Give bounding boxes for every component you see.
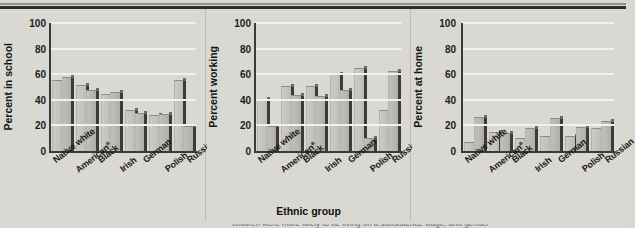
bar-top bbox=[291, 84, 294, 87]
bar-top bbox=[510, 131, 513, 134]
bar-top bbox=[183, 78, 186, 81]
bar-top bbox=[325, 94, 328, 97]
top-rule-light bbox=[0, 3, 626, 5]
y-axis-line-3 bbox=[461, 23, 463, 152]
gridline bbox=[50, 22, 196, 24]
bar-top bbox=[135, 108, 138, 111]
bar bbox=[135, 114, 145, 151]
y-tick-label: 20 bbox=[445, 120, 456, 131]
gridline bbox=[462, 22, 614, 24]
y-tick-label: 20 bbox=[35, 120, 46, 131]
y-axis-line-1 bbox=[49, 23, 51, 152]
gridline bbox=[462, 124, 614, 126]
bar-shadow bbox=[586, 128, 589, 151]
bar-groups-2 bbox=[255, 23, 401, 151]
bar-top bbox=[398, 69, 401, 72]
gridline bbox=[255, 99, 401, 101]
gridline bbox=[50, 99, 196, 101]
bar-top bbox=[144, 111, 147, 114]
y-axis-ticks-2: 020406080100 bbox=[215, 23, 251, 151]
bar-shadow bbox=[144, 114, 147, 151]
x-axis-title: Ethnic group bbox=[207, 205, 410, 217]
bar bbox=[174, 81, 184, 151]
bar-top bbox=[301, 93, 304, 96]
bar bbox=[52, 81, 62, 151]
bar bbox=[540, 137, 550, 151]
gridline bbox=[255, 22, 401, 24]
plot-area-1 bbox=[50, 23, 196, 151]
gridline bbox=[462, 73, 614, 75]
bar bbox=[388, 72, 398, 151]
y-axis-line-2 bbox=[254, 23, 256, 152]
bar-top bbox=[611, 119, 614, 122]
x-tick-label: Irish bbox=[533, 155, 553, 174]
bar-groups-1 bbox=[50, 23, 196, 151]
bar bbox=[591, 129, 601, 151]
y-tick-label: 60 bbox=[240, 69, 251, 80]
x-tick-label: Irish bbox=[118, 155, 138, 174]
gridline bbox=[255, 124, 401, 126]
y-tick-label: 40 bbox=[445, 94, 456, 105]
y-tick-label: 80 bbox=[35, 43, 46, 54]
y-axis-ticks-3: 020406080100 bbox=[420, 23, 456, 151]
x-axis-labels-3: Native whiteAmericanaBlackIrishGermanPol… bbox=[452, 155, 627, 207]
x-tick-label: Polish bbox=[163, 150, 189, 174]
chart-panel-percent-in-school: Percent in school 020406080100 Native wh… bbox=[2, 9, 206, 221]
bar bbox=[354, 69, 364, 151]
y-tick-label: 100 bbox=[234, 18, 251, 29]
gridline bbox=[255, 73, 401, 75]
gridline bbox=[462, 99, 614, 101]
bar-groups-3 bbox=[462, 23, 614, 151]
x-axis-labels-2: Native whiteAmericanaBlackIrishGermanPol… bbox=[247, 155, 422, 207]
y-axis-ticks-1: 020406080100 bbox=[10, 23, 46, 151]
x-axis-labels-1: Native whiteAmericanaBlackIrishGermanPol… bbox=[42, 155, 217, 207]
y-tick-label: 100 bbox=[29, 18, 46, 29]
bar bbox=[110, 93, 120, 151]
bar-top bbox=[535, 126, 538, 129]
chart-panel-percent-working: Percent working 020406080100 Native whit… bbox=[207, 9, 411, 221]
bar-top bbox=[315, 84, 318, 87]
chart-panel-percent-at-home: Percent at home 020406080100 Native whit… bbox=[412, 9, 624, 221]
bar-top bbox=[484, 115, 487, 118]
plot-area-3 bbox=[462, 23, 614, 151]
y-tick-label: 60 bbox=[35, 69, 46, 80]
gridline bbox=[50, 48, 196, 50]
bar-shadow bbox=[398, 72, 401, 151]
x-tick-label: Polish bbox=[580, 150, 606, 174]
bar-top bbox=[560, 116, 563, 119]
y-tick-label: 40 bbox=[240, 94, 251, 105]
gridline bbox=[462, 48, 614, 50]
bar bbox=[125, 111, 135, 151]
bar-top bbox=[349, 88, 352, 91]
page-caption-partial: children were more likely to be living o… bbox=[0, 219, 626, 228]
plot-area-2 bbox=[255, 23, 401, 151]
bar bbox=[62, 78, 72, 151]
bar-top bbox=[169, 112, 172, 115]
x-tick-label: Irish bbox=[323, 155, 343, 174]
bar-top bbox=[120, 90, 123, 93]
y-tick-label: 80 bbox=[240, 43, 251, 54]
bar-top bbox=[364, 66, 367, 69]
bar-top bbox=[96, 88, 99, 91]
y-tick-label: 60 bbox=[445, 69, 456, 80]
bar-shadow bbox=[535, 129, 538, 151]
bar-shadow bbox=[120, 93, 123, 151]
bar bbox=[379, 111, 389, 151]
gridline bbox=[255, 48, 401, 50]
bar-top bbox=[71, 75, 74, 78]
x-tick-label: Polish bbox=[368, 150, 394, 174]
gridline bbox=[50, 124, 196, 126]
bar-top bbox=[86, 83, 89, 86]
y-tick-label: 40 bbox=[35, 94, 46, 105]
y-tick-label: 100 bbox=[439, 18, 456, 29]
bar bbox=[183, 127, 193, 151]
y-tick-label: 80 bbox=[445, 43, 456, 54]
y-tick-label: 20 bbox=[240, 120, 251, 131]
gridline bbox=[50, 73, 196, 75]
bar bbox=[330, 75, 340, 151]
